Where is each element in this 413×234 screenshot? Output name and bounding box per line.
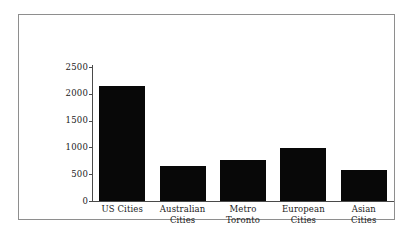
y-axis-tick-label: 0 xyxy=(28,197,88,206)
chart-frame: 05001000150020002500 US CitiesAustralian… xyxy=(18,14,395,220)
x-axis-category-label-line: Australian xyxy=(152,204,212,215)
x-axis-category-label: US Cities xyxy=(92,204,152,215)
value-axis-line xyxy=(92,65,93,201)
bar[interactable] xyxy=(99,86,145,201)
y-axis-tick-label: 1500 xyxy=(28,116,88,125)
category-axis-line xyxy=(92,201,394,202)
y-axis-tick-label: 2000 xyxy=(28,89,88,98)
x-axis-category-label-line: Cities xyxy=(273,215,333,226)
y-axis-tick-label: 500 xyxy=(28,170,88,179)
bar[interactable] xyxy=(341,170,387,201)
y-axis-tick-label: 2500 xyxy=(28,63,88,72)
bar[interactable] xyxy=(280,148,326,201)
x-axis-category-label-line: Cities xyxy=(334,215,394,226)
bar[interactable] xyxy=(220,160,266,201)
x-axis-category-label-line: European xyxy=(273,204,333,215)
y-axis-tick-mark xyxy=(89,94,92,95)
x-axis-category-label-line: US Cities xyxy=(92,204,152,215)
x-axis-category-label: EuropeanCities xyxy=(273,204,333,225)
x-axis-category-label: MetroToronto xyxy=(213,204,273,225)
y-axis-tick-mark xyxy=(89,174,92,175)
y-axis-tick-mark xyxy=(89,121,92,122)
x-axis-category-label-line: Toronto xyxy=(213,215,273,226)
y-axis-tick-mark xyxy=(89,201,92,202)
bar[interactable] xyxy=(160,166,206,201)
x-axis-category-label-line: Metro xyxy=(213,204,273,215)
x-axis-category-label-line: Asian xyxy=(334,204,394,215)
y-axis-tick-label: 1000 xyxy=(28,143,88,152)
x-axis-category-label: AustralianCities xyxy=(152,204,212,225)
x-axis-category-label-line: Cities xyxy=(152,215,212,226)
figure: 05001000150020002500 US CitiesAustralian… xyxy=(0,0,413,234)
x-axis-category-label: AsianCities xyxy=(334,204,394,225)
plot-area: 05001000150020002500 US CitiesAustralian… xyxy=(92,65,394,201)
y-axis-tick-mark xyxy=(89,67,92,68)
y-axis-tick-mark xyxy=(89,147,92,148)
